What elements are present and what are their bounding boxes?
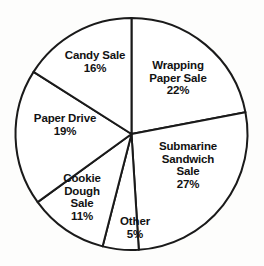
pie-slice — [132, 112, 248, 250]
pie-chart: WrappingPaper Sale22%SubmarineSandwichSa… — [0, 0, 264, 266]
pie-chart-graphic — [0, 0, 264, 266]
